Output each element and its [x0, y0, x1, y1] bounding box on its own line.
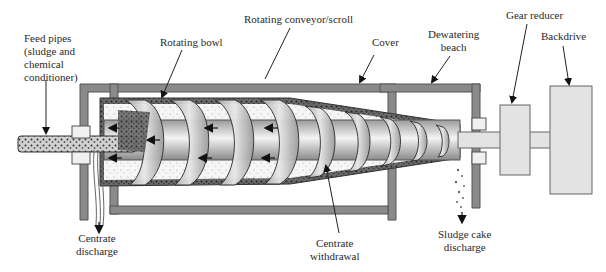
label-backdrive: Backdrive: [541, 30, 586, 43]
sludge-cake-stream: [455, 169, 465, 208]
label-rotating-bowl: Rotating bowl: [160, 36, 223, 49]
centrate-withdrawal-line-2: withdrawal: [310, 250, 359, 263]
feed-pipes-line-4: conditioner): [24, 71, 78, 84]
label-centrate-withdrawal: Centrate withdrawal: [310, 237, 359, 263]
centrate-discharge-line-2: discharge: [76, 245, 118, 258]
backdrive: [550, 86, 592, 194]
centrate-discharge-line-1: Centrate: [76, 232, 118, 245]
gear-reducer: [500, 105, 530, 175]
label-rotating-conveyor: Rotating conveyor/scroll: [244, 13, 353, 26]
feed-pipes-line-2: (sludge and: [24, 45, 78, 58]
feed-pipes-line-3: chemical: [24, 58, 78, 71]
label-gear-reducer: Gear reducer: [506, 9, 563, 22]
dewatering-beach-line-2: beach: [428, 41, 479, 54]
sludge-cake-line-2: discharge: [438, 241, 491, 254]
label-feed-pipes: Feed pipes (sludge and chemical conditio…: [24, 32, 78, 84]
label-sludge-cake-discharge: Sludge cake discharge: [438, 228, 491, 254]
label-centrate-discharge: Centrate discharge: [76, 232, 118, 258]
label-dewatering-beach: Dewatering beach: [428, 28, 479, 54]
centrate-withdrawal-line-1: Centrate: [310, 237, 359, 250]
sludge-cake-line-1: Sludge cake: [438, 228, 491, 241]
feed-pipes-line-1: Feed pipes: [24, 32, 78, 45]
dewatering-beach-line-1: Dewatering: [428, 28, 479, 41]
label-cover: Cover: [372, 36, 399, 49]
